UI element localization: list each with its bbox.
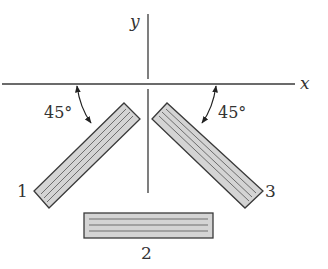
- plate-1: 1: [17, 103, 140, 208]
- plate-3-label: 3: [265, 181, 276, 201]
- left-angle-label: 45°: [44, 103, 72, 122]
- y-axis: y: [129, 11, 148, 193]
- plate-1-label: 1: [17, 181, 28, 201]
- right-angle-arrow: 45°: [202, 86, 246, 123]
- right-angle-label: 45°: [218, 103, 246, 122]
- y-axis-label: y: [129, 11, 140, 31]
- left-angle-arrow: 45°: [44, 86, 91, 123]
- x-axis-label: x: [300, 73, 310, 93]
- plate-3: 3: [152, 103, 276, 208]
- plate-2-label: 2: [141, 243, 152, 263]
- plate-2: 2: [84, 213, 213, 263]
- diagram-canvas: y x 1 3 2: [0, 0, 328, 269]
- x-axis: x: [2, 73, 310, 93]
